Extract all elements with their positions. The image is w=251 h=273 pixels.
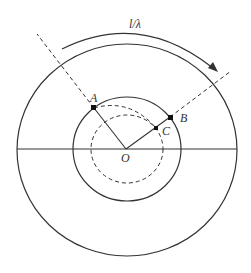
point-C [154,126,158,130]
point-B [168,115,173,120]
radius-OA [94,108,126,149]
arc-label: l/λ [129,17,141,32]
outer-circle [17,44,237,256]
dashed-arc [94,106,156,129]
label-B: B [180,111,187,126]
label-A: A [90,91,97,106]
label-O: O [121,151,130,166]
diagram-canvas: l/λ A B C O [0,0,251,273]
label-C: C [162,124,170,139]
circles-diagram [0,0,251,273]
dashed-line-A [37,34,94,108]
arrow-head-icon [208,62,218,72]
